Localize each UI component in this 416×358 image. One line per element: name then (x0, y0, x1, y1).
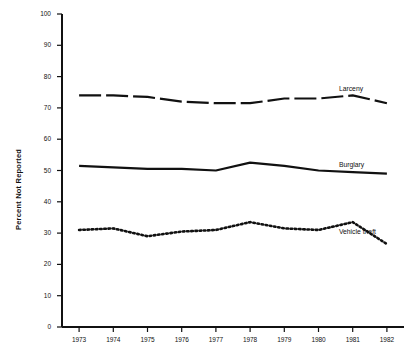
y-axis-tick-label: 30 (29, 229, 51, 236)
axis-lines (62, 14, 404, 327)
x-axis-tick-label: 1978 (235, 336, 265, 343)
x-axis-tick-label: 1980 (304, 336, 334, 343)
plot-area (0, 0, 416, 358)
y-axis-tick-label: 10 (29, 292, 51, 299)
x-axis-tick-label: 1974 (98, 336, 128, 343)
series-label-larceny: Larceny (339, 85, 363, 92)
series-line-larceny (79, 95, 387, 103)
y-axis-tick-label: 90 (29, 41, 51, 48)
y-axis-tick-label: 0 (29, 323, 51, 330)
series-label-vehicle-theft: Vehicle theft (339, 228, 376, 235)
x-axis-tick-label: 1975 (133, 336, 163, 343)
y-axis-tick-label: 70 (29, 104, 51, 111)
y-axis-tick-label: 60 (29, 135, 51, 142)
x-axis-tick-label: 1982 (372, 336, 402, 343)
chart-container: Percent Not Reported 0102030405060708090… (0, 0, 416, 358)
x-axis-tick-label: 1973 (64, 336, 94, 343)
x-axis-tick-label: 1979 (269, 336, 299, 343)
series-label-burglary: Burglary (339, 161, 364, 168)
y-axis-tick-label: 20 (29, 260, 51, 267)
x-axis-tick-label: 1976 (167, 336, 197, 343)
series-lines (79, 95, 387, 244)
x-axis-tick-label: 1977 (201, 336, 231, 343)
y-axis-tick-label: 100 (29, 10, 51, 17)
y-axis-tick-label: 40 (29, 198, 51, 205)
y-axis-tick-label: 50 (29, 167, 51, 174)
x-axis-tick-label: 1981 (338, 336, 368, 343)
y-axis-tick-label: 80 (29, 73, 51, 80)
